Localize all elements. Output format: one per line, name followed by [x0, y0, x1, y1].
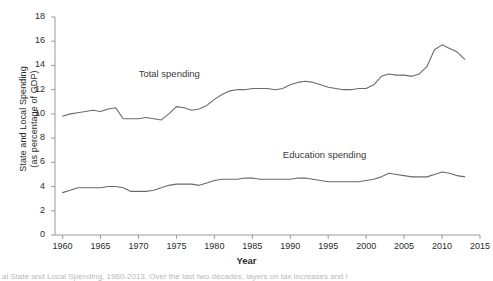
series-label-education-spending: Education spending — [283, 149, 366, 160]
y-tick-label: 18 — [19, 11, 45, 21]
x-tick-label: 1965 — [81, 241, 121, 251]
chart-figure: State and Local Spending (as percentage … — [0, 0, 493, 281]
x-axis-label: Year — [0, 255, 493, 266]
x-tick-label: 2010 — [422, 241, 462, 251]
y-tick-label: 16 — [19, 35, 45, 45]
series-line-total-spending — [63, 45, 465, 120]
y-tick-label: 10 — [19, 108, 45, 118]
y-tick-label: 4 — [19, 181, 45, 191]
x-tick-label: 1995 — [308, 241, 348, 251]
plot-canvas — [0, 0, 493, 281]
series-line-education-spending — [63, 172, 465, 193]
x-tick-label: 1990 — [270, 241, 310, 251]
x-tick-label: 1980 — [194, 241, 234, 251]
y-tick-label: 0 — [19, 229, 45, 239]
y-tick-label: 14 — [19, 59, 45, 69]
y-tick-label: 8 — [19, 132, 45, 142]
x-tick-label: 2000 — [346, 241, 386, 251]
x-tick-label: 2005 — [384, 241, 424, 251]
y-tick-label: 2 — [19, 205, 45, 215]
figure-caption: al State and Local Spending, 1960-2013. … — [0, 272, 493, 281]
y-tick-label: 6 — [19, 156, 45, 166]
x-tick-label: 1985 — [232, 241, 272, 251]
series-label-total-spending: Total spending — [139, 68, 200, 79]
x-tick-label: 2015 — [460, 241, 493, 251]
x-tick-label: 1960 — [43, 241, 83, 251]
y-tick-label: 12 — [19, 84, 45, 94]
x-tick-label: 1975 — [156, 241, 196, 251]
x-tick-label: 1970 — [118, 241, 158, 251]
